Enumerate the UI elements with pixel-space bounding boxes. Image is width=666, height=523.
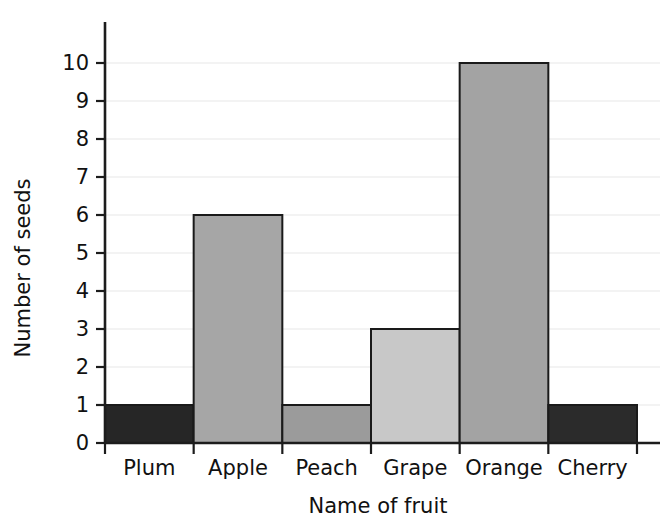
y-tick-label: 5 [76,241,89,265]
bar-cherry [548,405,637,443]
x-axis-title: Name of fruit [309,494,448,518]
bar-plum [105,405,194,443]
x-tick-label-plum: Plum [123,456,175,480]
y-tick-label: 10 [62,51,89,75]
y-tick-label: 2 [76,355,89,379]
x-tick-label-grape: Grape [383,456,447,480]
x-tick-label-orange: Orange [465,456,543,480]
y-tick-label: 3 [76,317,89,341]
bar-peach [282,405,371,443]
chart-background [0,0,666,523]
bar-chart: 012345678910 PlumApplePeachGrapeOrangeCh… [0,0,666,523]
y-tick-label: 0 [76,431,89,455]
y-tick-label: 6 [76,203,89,227]
y-axis-title: Number of seeds [11,178,35,357]
y-tick-label: 1 [76,393,89,417]
x-tick-label-apple: Apple [208,456,268,480]
bar-orange [460,63,549,443]
bar-apple [194,215,283,443]
y-tick-label: 8 [76,127,89,151]
bar-grape [371,329,460,443]
y-tick-label: 4 [76,279,89,303]
x-tick-label-cherry: Cherry [558,456,628,480]
chart-canvas: 012345678910 PlumApplePeachGrapeOrangeCh… [0,0,666,523]
y-tick-label: 7 [76,165,89,189]
y-tick-label: 9 [76,89,89,113]
x-tick-label-peach: Peach [295,456,358,480]
